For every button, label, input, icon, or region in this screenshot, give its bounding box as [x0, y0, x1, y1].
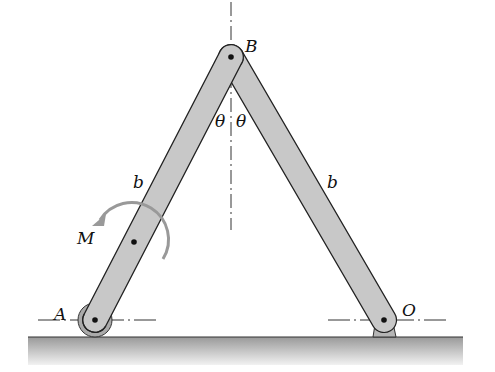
label-a: A [52, 304, 66, 324]
pin-a [92, 317, 98, 323]
center-of-mass-dot [131, 239, 137, 245]
ground [28, 337, 463, 365]
label-o: O [402, 300, 416, 320]
label-moment: M [76, 228, 95, 248]
pin-b [228, 54, 234, 60]
label-b: B [244, 36, 258, 56]
diagram-canvas: B A O b b θ θ M [0, 0, 495, 372]
bar-ab [83, 45, 244, 333]
pin-o [381, 317, 387, 323]
label-left-length: b [133, 172, 144, 192]
bar-bo [219, 45, 397, 333]
label-theta-right: θ [236, 111, 246, 131]
label-theta-left: θ [215, 111, 225, 131]
moment-arrowhead-icon [92, 214, 106, 226]
mechanism-diagram: B A O b b θ θ M [0, 0, 495, 372]
label-right-length: b [327, 172, 338, 192]
